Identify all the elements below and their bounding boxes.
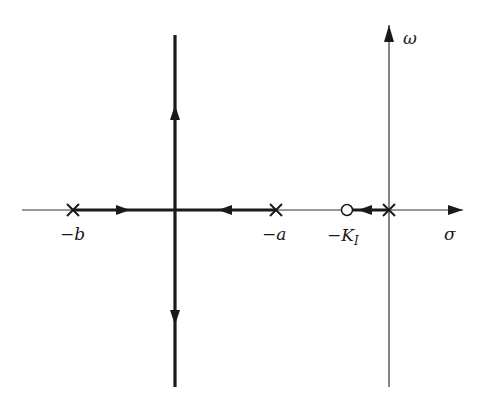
label-minus-b: −b <box>60 224 85 244</box>
arrow-left-icon <box>218 205 232 215</box>
zero-minus-KI <box>342 205 353 216</box>
label-minus-a: −a <box>262 224 286 244</box>
label-sigma: σ <box>444 224 456 244</box>
arrow-left-icon <box>358 205 372 215</box>
arrow-down-icon <box>170 310 180 325</box>
arrow-up-icon <box>170 105 180 120</box>
real-axis-arrow-icon <box>448 205 463 215</box>
arrow-right-icon <box>116 205 130 215</box>
locus-real-segment-right <box>352 205 389 215</box>
label-omega: ω <box>403 28 417 48</box>
label-minus-KI: −KI <box>327 225 359 248</box>
imag-axis-arrow-icon <box>384 25 394 42</box>
root-locus-diagram: −b −a −KI σ ω <box>0 0 488 410</box>
